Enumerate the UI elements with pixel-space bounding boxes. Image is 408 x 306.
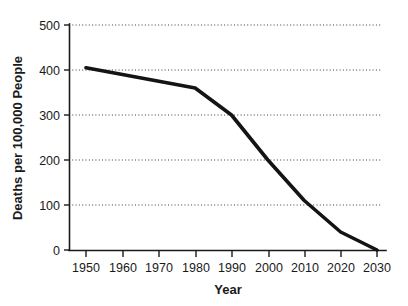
x-axis-title: Year [214, 282, 241, 297]
gridlines-group [69, 25, 382, 205]
x-tick-label-2010: 2010 [291, 261, 319, 275]
x-tick-label-1970: 1970 [145, 261, 173, 275]
line-chart-figure: 500 400 300 200 100 0 1950 1960 1970 198… [0, 0, 408, 306]
x-tick-label-1990: 1990 [218, 261, 246, 275]
y-tick-marks-group [64, 25, 69, 250]
y-tick-labels-group: 500 400 300 200 100 0 [39, 19, 60, 258]
y-axis-title: Deaths per 100,000 People [10, 56, 25, 220]
x-tick-label-1960: 1960 [109, 261, 137, 275]
data-series-line [86, 68, 377, 250]
x-tick-label-2030: 2030 [363, 261, 391, 275]
x-tick-label-1950: 1950 [72, 261, 100, 275]
x-tick-label-2020: 2020 [327, 261, 355, 275]
y-tick-label-400: 400 [39, 64, 60, 78]
y-tick-label-0: 0 [53, 244, 60, 258]
y-tick-label-100: 100 [39, 199, 60, 213]
x-tick-labels-group: 1950 1960 1970 1980 1990 2000 2010 2020 … [72, 261, 391, 275]
y-tick-label-200: 200 [39, 154, 60, 168]
x-tick-label-2000: 2000 [255, 261, 283, 275]
chart-canvas: 500 400 300 200 100 0 1950 1960 1970 198… [0, 0, 408, 306]
y-tick-label-300: 300 [39, 109, 60, 123]
x-tick-label-1980: 1980 [182, 261, 210, 275]
y-tick-label-500: 500 [39, 19, 60, 33]
